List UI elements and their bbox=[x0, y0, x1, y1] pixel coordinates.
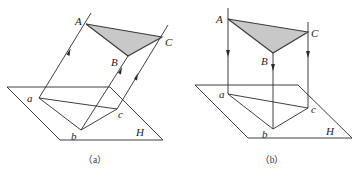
projector-b-line bbox=[81, 45, 135, 130]
label-B: B bbox=[261, 55, 268, 67]
projection-diagram: A C B a b c H （a） A C B a b c H （b） bbox=[0, 0, 357, 177]
label-A: A bbox=[215, 13, 223, 25]
label-C: C bbox=[311, 27, 319, 39]
triangle-abc-a bbox=[86, 24, 162, 56]
label-B: B bbox=[111, 56, 118, 68]
label-A: A bbox=[74, 15, 82, 27]
triangle-abc-projection-a bbox=[39, 98, 117, 130]
arrow-marker bbox=[306, 51, 310, 58]
label-c: c bbox=[311, 103, 316, 115]
label-a: a bbox=[27, 92, 33, 104]
panel-a: A C B a b c H （a） bbox=[7, 13, 173, 165]
label-plane-H: H bbox=[325, 125, 335, 137]
arrow-marker bbox=[226, 50, 230, 57]
projector-a-line bbox=[39, 13, 91, 98]
label-C: C bbox=[165, 36, 173, 48]
label-b: b bbox=[262, 128, 268, 140]
label-a: a bbox=[219, 88, 225, 100]
panel-b: A C B a b c H （b） bbox=[195, 8, 352, 165]
label-b: b bbox=[71, 130, 77, 142]
triangle-abc-b bbox=[228, 19, 308, 53]
label-plane-H: H bbox=[135, 126, 145, 138]
caption-b: （b） bbox=[260, 154, 285, 165]
arrow-marker bbox=[271, 64, 275, 71]
label-c: c bbox=[118, 108, 123, 120]
caption-a: （a） bbox=[83, 154, 107, 165]
triangle-abc-projection-b bbox=[228, 94, 308, 129]
